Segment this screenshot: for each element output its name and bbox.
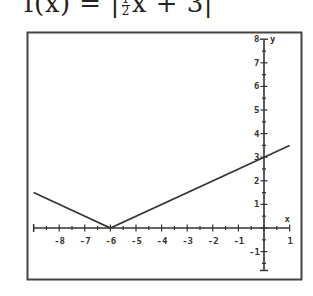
y-tick-label: 8 bbox=[254, 34, 259, 44]
x-tick-label: -5 bbox=[131, 236, 142, 246]
tick-labels: -8-7-6-5-4-3-2-1187654321-1 bbox=[54, 34, 293, 256]
x-tick-label: -8 bbox=[54, 236, 65, 246]
y-tick-label: 1 bbox=[254, 199, 259, 209]
x-tick-label: -6 bbox=[105, 236, 116, 246]
x-axis-label: x bbox=[284, 214, 290, 224]
y-tick-label: -1 bbox=[249, 247, 260, 257]
y-tick-label: 5 bbox=[254, 105, 259, 115]
y-tick-label: 2 bbox=[254, 176, 259, 186]
y-axis-label: y bbox=[270, 34, 276, 44]
x-tick-label: -2 bbox=[208, 236, 219, 246]
function-line bbox=[34, 145, 290, 228]
graph-plot: -8-7-6-5-4-3-2-1187654321-1 x y bbox=[0, 0, 313, 296]
x-tick-label: -1 bbox=[233, 236, 244, 246]
y-tick-label: 7 bbox=[254, 58, 259, 68]
axis-ticks bbox=[34, 51, 290, 263]
y-tick-label: 6 bbox=[254, 81, 259, 91]
x-tick-label: -7 bbox=[80, 236, 91, 246]
y-tick-label: 4 bbox=[254, 129, 260, 139]
x-tick-label: -3 bbox=[182, 236, 193, 246]
x-tick-label: 1 bbox=[288, 236, 293, 246]
x-tick-label: -4 bbox=[157, 236, 168, 246]
